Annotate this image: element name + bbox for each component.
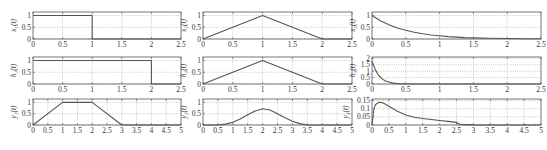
x-tick-label: 5 (539, 126, 543, 135)
subplot-x3: 00.511.522.500.51x₃(t) (348, 11, 546, 49)
x-tick-label: 2.5 (536, 40, 546, 49)
x-tick-label: 2 (150, 40, 154, 49)
x-tick-label: 2.5 (347, 85, 357, 94)
subplot-y1: 00.511.522.533.544.5500.51y₁(t) (9, 98, 183, 135)
x-tick-label: 1 (438, 40, 442, 49)
axes-box (203, 12, 352, 39)
x-tick-label: 3.5 (132, 126, 142, 135)
x-tick-label: 1 (261, 40, 265, 49)
x-tick-label: 3.5 (303, 126, 313, 135)
y-axis-label: h₂(t) (179, 63, 188, 77)
x-tick-label: 1.5 (243, 126, 253, 135)
x-tick-label: 2 (150, 85, 154, 94)
x-tick-label: 1.5 (418, 126, 428, 135)
x-tick-label: 1 (61, 126, 65, 135)
x-tick-label: 1.5 (288, 85, 298, 94)
y-tick-label: 0.5 (361, 23, 371, 32)
x-tick-label: 2.5 (347, 40, 357, 49)
axes-box (372, 57, 541, 84)
x-tick-label: 2 (90, 126, 94, 135)
series-line-h3 (372, 61, 541, 84)
y-tick-label: 0 (366, 121, 370, 130)
x-tick-label: 0 (201, 85, 205, 94)
subplot-grid: 00.511.522.500.51x₁(t)00.511.522.500.51x… (0, 0, 547, 150)
axes-box (372, 12, 541, 39)
x-tick-label: 1.5 (117, 40, 127, 49)
y-tick-label: 0.5 (192, 109, 202, 118)
x-tick-label: 4 (320, 126, 324, 135)
y-tick-label: 0.5 (22, 23, 32, 32)
x-tick-label: 4.5 (162, 126, 172, 135)
axes-box (203, 57, 352, 84)
x-tick-label: 0.5 (401, 85, 411, 94)
x-tick-label: 0 (370, 40, 374, 49)
x-tick-label: 2 (505, 85, 509, 94)
x-tick-label: 1 (90, 85, 94, 94)
x-tick-label: 1.5 (288, 40, 298, 49)
x-tick-label: 1.5 (469, 85, 479, 94)
y-tick-label: 0.5 (192, 23, 202, 32)
y-tick-label: 0.5 (192, 68, 202, 77)
x-tick-label: 2.5 (176, 85, 186, 94)
x-tick-label: 1 (231, 126, 235, 135)
y-tick-label: 1 (27, 56, 31, 65)
y-tick-label: 0 (197, 35, 201, 44)
x-tick-label: 5 (350, 126, 354, 135)
x-tick-label: 0.5 (58, 85, 68, 94)
x-tick-label: 1.5 (469, 40, 479, 49)
x-tick-label: 4.5 (519, 126, 529, 135)
x-tick-label: 1 (90, 40, 94, 49)
y-tick-label: 1 (197, 11, 201, 20)
y-tick-label: 1 (197, 98, 201, 107)
x-tick-label: 3 (472, 126, 476, 135)
x-tick-label: 2 (505, 40, 509, 49)
y-tick-label: 0 (197, 121, 201, 130)
y-axis-label: h₁(t) (9, 63, 18, 77)
subplot-h2: 00.511.522.500.51h₂(t) (179, 56, 357, 94)
x-tick-label: 2.5 (536, 85, 546, 94)
x-tick-label: 0 (201, 40, 205, 49)
subplot-h3: 00.511.522.500.511.52h₃(t) (348, 54, 546, 94)
y-tick-label: 0 (366, 35, 370, 44)
x-tick-label: 2 (438, 126, 442, 135)
x-tick-label: 4 (150, 126, 154, 135)
y-tick-label: 0.1 (361, 104, 371, 113)
x-tick-label: 2.5 (102, 126, 112, 135)
x-tick-label: 0.5 (401, 40, 411, 49)
subplot-y3: 00.511.522.533.544.5500.050.10.15y₃(t) (341, 96, 543, 135)
y-tick-label: 0 (27, 35, 31, 44)
y-tick-label: 0 (27, 80, 31, 89)
x-tick-label: 2.5 (273, 126, 283, 135)
y-tick-label: 0.05 (357, 112, 370, 121)
y-tick-label: 1 (197, 56, 201, 65)
y-axis-label: y₁(t) (9, 105, 18, 120)
y-axis-label: x₂(t) (179, 18, 188, 33)
x-tick-label: 0.5 (228, 85, 238, 94)
figure: 00.511.522.500.51x₁(t)00.511.522.500.51x… (0, 0, 547, 150)
x-tick-label: 2 (320, 40, 324, 49)
x-tick-label: 0.5 (384, 126, 394, 135)
x-tick-label: 2 (261, 126, 265, 135)
y-axis-label: y₂(t) (179, 105, 188, 120)
x-tick-label: 3 (291, 126, 295, 135)
x-tick-label: 5 (179, 126, 183, 135)
x-tick-label: 4.5 (332, 126, 342, 135)
x-tick-label: 2 (320, 85, 324, 94)
x-tick-label: 0.5 (58, 40, 68, 49)
x-tick-label: 0 (201, 126, 205, 135)
y-tick-label: 0 (197, 80, 201, 89)
y-tick-label: 2 (366, 54, 370, 63)
subplot-x2: 00.511.522.500.51x₂(t) (179, 11, 357, 49)
y-tick-label: 0.15 (357, 96, 370, 105)
x-tick-label: 4 (505, 126, 509, 135)
x-tick-label: 1 (438, 85, 442, 94)
x-tick-label: 0.5 (228, 40, 238, 49)
subplot-x1: 00.511.522.500.51x₁(t) (9, 11, 186, 49)
y-tick-label: 1 (27, 98, 31, 107)
x-tick-label: 1.5 (117, 85, 127, 94)
x-tick-label: 3 (120, 126, 124, 135)
bottom-caption-fragment (80, 145, 460, 150)
x-tick-label: 0 (31, 126, 35, 135)
x-tick-label: 1.5 (73, 126, 83, 135)
y-tick-label: 0 (27, 121, 31, 130)
